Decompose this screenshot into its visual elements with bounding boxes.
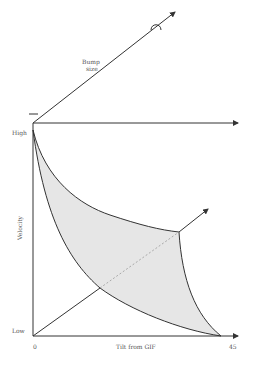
- x-axis-label: Tilt from GIF: [116, 343, 156, 350]
- velocity-tilt-diagram: Bump size High Low Velocity 0 Tilt from …: [0, 0, 253, 368]
- y-high-label: High: [12, 129, 27, 137]
- y-low-label: Low: [12, 327, 26, 334]
- diagonal-arrow: [179, 209, 208, 232]
- bump-size-label-line2: size: [86, 65, 98, 72]
- diagonal-solid: [33, 288, 100, 336]
- y-axis-label: Velocity: [16, 215, 24, 241]
- x-min-label: 0: [33, 343, 37, 350]
- x-max-label: 45: [229, 343, 237, 350]
- bump-size-axis: [33, 12, 175, 123]
